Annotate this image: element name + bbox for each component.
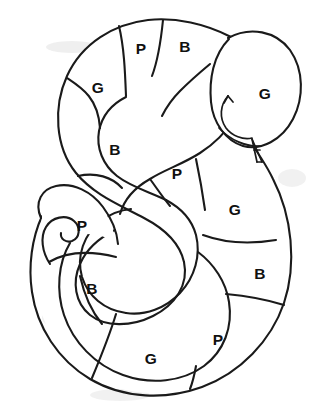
head-letter: G bbox=[259, 85, 271, 102]
segment-letter: B bbox=[254, 265, 265, 282]
segment-letter: G bbox=[229, 201, 241, 218]
snake-drawing: B P G B P G B P G B P G bbox=[0, 0, 315, 413]
segment-letter: G bbox=[145, 350, 157, 367]
segment-letter: P bbox=[77, 217, 88, 234]
segment-letter: B bbox=[86, 280, 97, 297]
segment-letter: P bbox=[213, 331, 224, 348]
figure-root: B P G B P G B P G B P G bbox=[0, 0, 315, 413]
segment-letter: G bbox=[92, 79, 104, 96]
segment-letter: B bbox=[179, 38, 190, 55]
segment-letter: P bbox=[136, 40, 147, 57]
segment-letter: P bbox=[172, 165, 183, 182]
snake-head bbox=[210, 32, 301, 148]
segment-letter: B bbox=[109, 141, 120, 158]
